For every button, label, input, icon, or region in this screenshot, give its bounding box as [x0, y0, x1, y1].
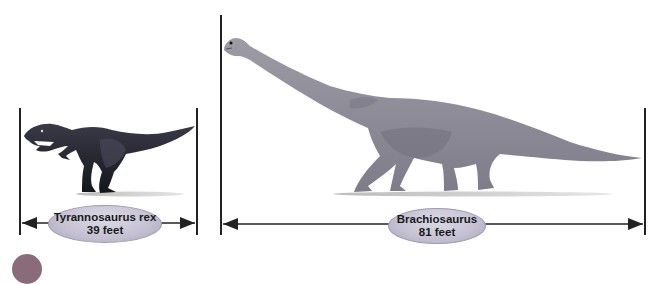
brachiosaurus-name: Brachiosaurus — [397, 213, 478, 226]
brachiosaurus-ground-shadow — [333, 192, 613, 197]
trex-label: Tyrannosaurus rex 39 feet — [48, 205, 162, 243]
brachiosaurus-label: Brachiosaurus 81 feet — [388, 208, 486, 244]
brachiosaurus-length: 81 feet — [419, 226, 455, 239]
trex-illustration — [24, 124, 195, 193]
trex-ground-shadow — [76, 192, 184, 197]
corner-circle-marker — [12, 254, 42, 284]
trex-name: Tyrannosaurus rex — [54, 211, 157, 224]
brachiosaurus-illustration — [224, 38, 642, 192]
trex-length: 39 feet — [87, 224, 123, 237]
